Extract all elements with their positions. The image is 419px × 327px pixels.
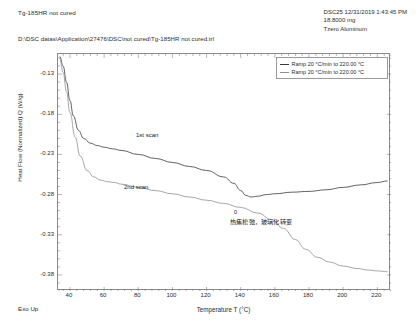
- plot-area: Ramp 20 °C/min to 220.00 °C Ramp 20 °C/m…: [57, 53, 390, 290]
- x-axis-title: Temperature T (°C): [57, 306, 390, 313]
- y-axis-tick-labels: -0.13-0.18-0.23-0.28-0.33-0.38: [26, 53, 54, 290]
- annotation-second-scan: 2nd scan: [124, 184, 148, 190]
- legend: Ramp 20 °C/min to 220.00 °C Ramp 20 °C/m…: [276, 57, 388, 79]
- y-tick-label: -0.18: [40, 110, 54, 116]
- y-tick-label: -0.28: [40, 191, 54, 197]
- run-info-block: DSC25 12/31/2019 1:43:45 PM 18.8000 mg T…: [324, 8, 407, 33]
- legend-label-2: Ramp 20 °C/min to 220.00 °C: [292, 69, 365, 75]
- pan-type: Tzero Aluminum: [324, 25, 407, 33]
- exo-up-label: Exo Up: [18, 305, 38, 312]
- x-tick-label: 80: [134, 292, 141, 298]
- annotation-zero-marker: 0: [234, 209, 237, 215]
- annotation-first-scan: 1st scan: [136, 132, 158, 138]
- legend-entry: Ramp 20 °C/min to 220.00 °C: [280, 60, 385, 68]
- legend-color-swatch-2: [280, 72, 289, 73]
- x-tick-label: 60: [100, 292, 107, 298]
- x-tick-label: 180: [303, 292, 313, 298]
- legend-label-1: Ramp 20 °C/min to 220.00 °C: [292, 61, 365, 67]
- sample-title: Tg-185HR not cured: [18, 9, 76, 16]
- y-axis-title: Heat Flow (Normalized) Q (W/g): [16, 43, 23, 233]
- legend-color-swatch-1: [280, 64, 289, 65]
- x-tick-label: 200: [337, 292, 347, 298]
- x-tick-label: 100: [166, 292, 176, 298]
- y-tick-label: -0.13: [40, 70, 54, 76]
- x-tick-label: 160: [269, 292, 279, 298]
- instrument-datetime: DSC25 12/31/2019 1:43:45 PM: [324, 8, 407, 16]
- y-tick-label: -0.23: [40, 150, 54, 156]
- sample-mass: 18.8000 mg: [324, 16, 407, 24]
- file-path: D:\DSC datas\Application\27476\DSC\not c…: [18, 35, 214, 42]
- x-tick-label: 220: [371, 292, 381, 298]
- x-axis-tick-labels: 406080100120140160180200220: [57, 292, 390, 304]
- axis-tick-marks: [58, 54, 391, 291]
- data-curves: [60, 56, 388, 271]
- thermogram-curves: [58, 54, 391, 291]
- y-tick-label: -0.33: [40, 231, 54, 237]
- dsc-thermogram-screenshot: Tg-185HR not cured DSC25 12/31/2019 1:43…: [0, 0, 419, 327]
- y-tick-label: -0.38: [40, 271, 54, 277]
- x-tick-label: 40: [66, 292, 73, 298]
- legend-entry: Ramp 20 °C/min to 220.00 °C: [280, 68, 385, 76]
- annotation-glass-transition-note: 热焦松弛，玻璃化转变: [230, 217, 292, 226]
- curve-2nd-scan: [60, 58, 388, 272]
- x-tick-label: 140: [235, 292, 245, 298]
- x-tick-label: 120: [201, 292, 211, 298]
